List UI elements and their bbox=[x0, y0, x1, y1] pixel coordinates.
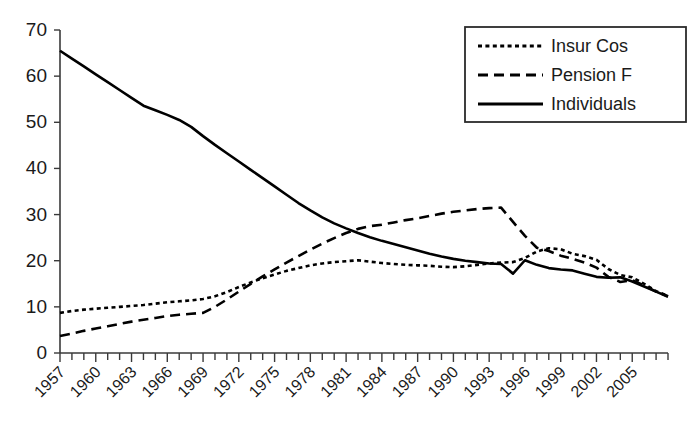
y-tick-label: 0 bbox=[36, 342, 47, 363]
x-tick-label: 1978 bbox=[281, 363, 318, 400]
x-tick-label: 2005 bbox=[603, 363, 640, 400]
y-tick-label: 60 bbox=[26, 65, 47, 86]
x-tick-label: 1984 bbox=[353, 363, 390, 400]
x-axis-tick-labels: 1957196019631966196919721975197819811984… bbox=[31, 363, 640, 400]
y-tick-label: 10 bbox=[26, 296, 47, 317]
x-tick-label: 2002 bbox=[567, 363, 604, 400]
x-tick-label: 1987 bbox=[389, 363, 426, 400]
y-tick-label: 70 bbox=[26, 19, 47, 40]
x-tick-label: 1972 bbox=[210, 363, 247, 400]
series-line-insur-cos bbox=[60, 248, 668, 313]
y-axis-tick-marks bbox=[54, 30, 60, 353]
x-tick-label: 1993 bbox=[460, 363, 497, 400]
x-tick-label: 1975 bbox=[246, 363, 283, 400]
x-tick-label: 1960 bbox=[67, 363, 104, 400]
y-tick-label: 40 bbox=[26, 157, 47, 178]
x-tick-label: 1996 bbox=[496, 363, 533, 400]
y-tick-label: 50 bbox=[26, 111, 47, 132]
x-tick-label: 1990 bbox=[424, 363, 461, 400]
y-axis-tick-labels: 010203040506070 bbox=[26, 19, 47, 363]
x-tick-label: 1966 bbox=[138, 363, 175, 400]
legend-label-insur-cos: Insur Cos bbox=[551, 36, 628, 56]
legend-label-individuals: Individuals bbox=[551, 94, 636, 114]
y-tick-label: 30 bbox=[26, 204, 47, 225]
x-tick-label: 1969 bbox=[174, 363, 211, 400]
chart-legend: Insur CosPension FIndividuals bbox=[465, 27, 686, 122]
x-axis-tick-marks bbox=[60, 353, 668, 362]
y-tick-label: 20 bbox=[26, 250, 47, 271]
legend-label-pension-f: Pension F bbox=[551, 65, 632, 85]
x-tick-label: 1999 bbox=[532, 363, 569, 400]
x-tick-label: 1957 bbox=[31, 363, 68, 400]
line-chart: 010203040506070 195719601963196619691972… bbox=[0, 0, 694, 429]
x-tick-label: 1981 bbox=[317, 363, 354, 400]
chart-canvas: 010203040506070 195719601963196619691972… bbox=[0, 0, 694, 429]
x-tick-label: 1963 bbox=[102, 363, 139, 400]
